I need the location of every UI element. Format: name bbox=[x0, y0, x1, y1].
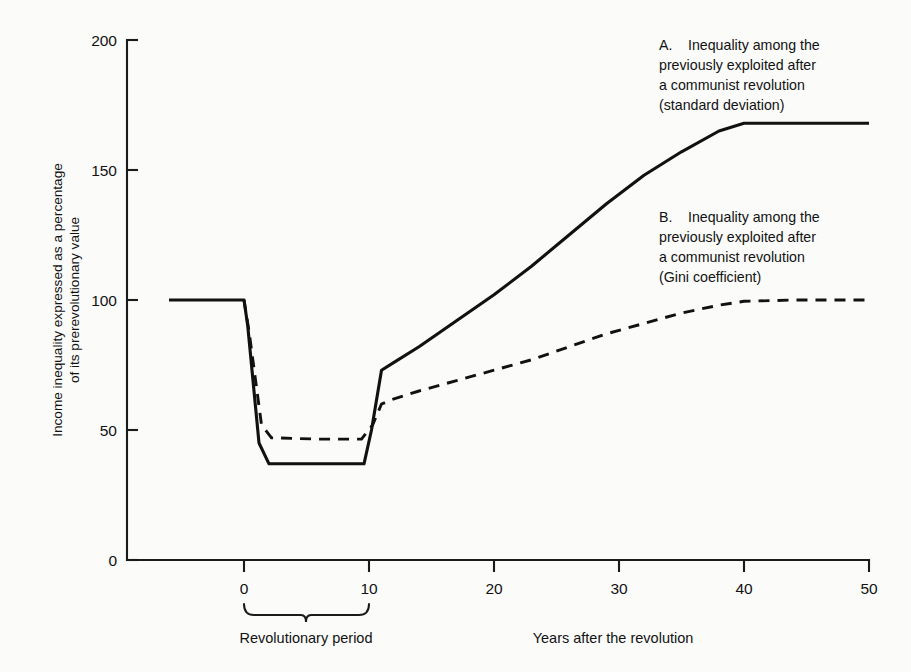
series-line-b bbox=[244, 300, 869, 439]
y-axis-title-line1: Income inequality expressed as a percent… bbox=[50, 163, 65, 437]
x-tick-label-50: 50 bbox=[860, 580, 878, 597]
x-axis-title: Years after the revolution bbox=[533, 630, 694, 646]
annotation-b-line2: previously exploited after bbox=[659, 229, 816, 245]
annotation-b-line3: a communist revolution bbox=[659, 249, 805, 265]
annotation-a-line3: a communist revolution bbox=[659, 77, 805, 93]
annotation-series-a: A. Inequality among the previously explo… bbox=[659, 37, 820, 113]
y-axis-title-line2: of its prerevolutionary value bbox=[67, 217, 82, 383]
annotation-a-letter: A. bbox=[659, 37, 672, 53]
x-tick-label-30: 30 bbox=[610, 580, 628, 597]
y-tick-label-50: 50 bbox=[100, 422, 118, 439]
chart-figure: 200 150 100 50 0 0 10 20 30 40 50 bbox=[0, 0, 911, 672]
revolutionary-period-brace bbox=[244, 604, 369, 622]
x-axis-tick-labels: 0 10 20 30 40 50 bbox=[240, 580, 878, 597]
y-axis-ticks bbox=[127, 40, 138, 560]
annotation-a-line4: (standard deviation) bbox=[659, 97, 784, 113]
annotation-series-b: B. Inequality among the previously explo… bbox=[659, 209, 820, 285]
chart-canvas: 200 150 100 50 0 0 10 20 30 40 50 bbox=[0, 0, 911, 672]
y-axis-tick-labels: 200 150 100 50 0 bbox=[91, 32, 117, 569]
annotation-b-line1: Inequality among the bbox=[688, 209, 820, 225]
x-tick-label-0: 0 bbox=[240, 580, 249, 597]
series-line-a bbox=[169, 123, 869, 464]
revolutionary-period-label: Revolutionary period bbox=[240, 630, 373, 646]
annotation-b-line4: (Gini coefficient) bbox=[659, 269, 761, 285]
annotation-a-line2: previously exploited after bbox=[659, 57, 816, 73]
y-tick-label-0: 0 bbox=[108, 552, 117, 569]
y-tick-label-150: 150 bbox=[91, 162, 117, 179]
x-tick-label-40: 40 bbox=[735, 580, 753, 597]
annotation-a-line1: Inequality among the bbox=[688, 37, 820, 53]
x-tick-label-20: 20 bbox=[485, 580, 503, 597]
annotation-b-letter: B. bbox=[659, 209, 672, 225]
x-axis-ticks bbox=[244, 560, 869, 572]
y-tick-label-100: 100 bbox=[91, 292, 117, 309]
y-tick-label-200: 200 bbox=[91, 32, 117, 49]
y-axis-title: Income inequality expressed as a percent… bbox=[50, 163, 82, 437]
x-tick-label-10: 10 bbox=[360, 580, 378, 597]
